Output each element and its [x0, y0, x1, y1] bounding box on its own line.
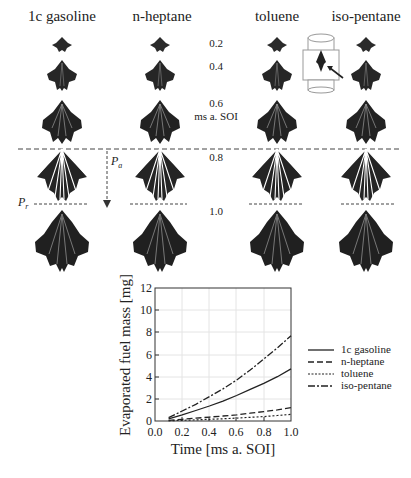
x-axis-label: Time [ms a. SOI]: [171, 441, 275, 458]
x-tick-0.6: 0.6: [226, 425, 246, 440]
x-tick-0.8: 0.8: [254, 425, 274, 440]
series-toluene: [169, 414, 291, 420]
legend-label-1c-gasoline: 1c gasoline: [341, 343, 391, 355]
x-tick-0.2: 0.2: [172, 425, 192, 440]
radial-penetration-label: Pr: [18, 195, 28, 211]
y-tick-6: 6: [136, 348, 152, 363]
spray-images: [0, 0, 411, 280]
legend-label-iso-pentane: iso-pentane: [341, 379, 392, 391]
y-tick-10: 10: [136, 303, 152, 318]
x-tick-1.0: 1.0: [281, 425, 301, 440]
y-axis-label: Evaporated fuel mass [mg]: [117, 274, 134, 436]
y-tick-8: 8: [136, 325, 152, 340]
x-tick-0.0: 0.0: [145, 425, 165, 440]
y-tick-0: 0: [136, 414, 152, 429]
y-tick-12: 12: [136, 281, 152, 296]
series-1c-gasoline: [169, 369, 291, 419]
y-tick-4: 4: [136, 370, 152, 385]
legend-label-toluene: toluene: [341, 367, 373, 379]
series-iso-pentane: [169, 336, 291, 418]
legend-label-n-heptane: n-heptane: [341, 355, 384, 367]
y-tick-2: 2: [136, 392, 152, 407]
series-n-heptane: [169, 408, 291, 421]
axial-penetration-label: Pa: [111, 154, 122, 170]
x-tick-0.4: 0.4: [199, 425, 219, 440]
